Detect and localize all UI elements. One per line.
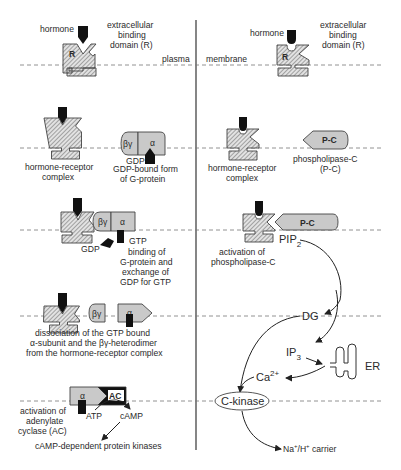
step3-desc-1: binding of xyxy=(128,247,166,257)
pc-label-1: phospholipase-C xyxy=(293,154,358,164)
ckinase-to-carrier-arrow xyxy=(242,411,281,449)
alpha-subunit-icon xyxy=(118,304,152,322)
complex-label-2: complex xyxy=(226,173,259,183)
atp-label: ATP xyxy=(86,411,102,421)
gprotein-label-1: GDP-bound form xyxy=(113,164,178,174)
gdp-label: GDP xyxy=(81,244,100,254)
plasma-label: plasma xyxy=(162,54,190,64)
step5-desc-2: adenylate xyxy=(26,416,63,426)
step3-desc-1: activation of xyxy=(219,247,265,257)
left-step5: α AC activation of adenylate cyclase (AC… xyxy=(18,387,162,451)
hormone-label: hormone xyxy=(250,28,284,38)
alpha-label: α xyxy=(150,138,155,148)
gprotein-label-2: of G-protein xyxy=(120,174,166,184)
domain-label-2: binding xyxy=(329,30,357,40)
complex-label-2: complex xyxy=(42,172,75,182)
hormone-label: hormone xyxy=(40,24,74,34)
ca-label: Ca2+ xyxy=(256,369,280,383)
receptor-letter: R xyxy=(282,52,289,62)
domain-label-1: extracellular xyxy=(320,20,366,30)
domain-label-3: domain (R) xyxy=(322,40,365,50)
hormone-icon xyxy=(239,117,247,131)
receptor-icon xyxy=(63,44,96,76)
membrane-label: membrane xyxy=(206,54,247,64)
gdp-leaving-icon xyxy=(100,238,114,248)
left-step2: hormone-receptor complex βγ α GDP GDP-bo… xyxy=(25,107,178,184)
left-step1: hormone R extracellular binding domain (… xyxy=(40,20,190,76)
step4-desc-3: from the hormone-receptor complex xyxy=(26,348,163,358)
step3-desc-2: phospholipase-C xyxy=(211,257,276,267)
right-cascade: DG IP3 ER Ca2+ C-kinase Na+/H+ carrier xyxy=(215,240,380,454)
pip2-label: PIP2 xyxy=(279,233,302,249)
ip3-to-er-arrow xyxy=(306,358,322,364)
hormone-receptor-complex-icon xyxy=(243,214,275,242)
step4-desc-1: dissociation of the GTP bound xyxy=(35,328,150,338)
hormone-icon xyxy=(78,26,88,44)
domain-label-2: binding xyxy=(118,30,146,40)
camp-to-kinases-arrow xyxy=(102,422,120,440)
alpha-label: α xyxy=(120,217,125,227)
step4-desc-2: α-subunit and the βγ-heterodimer xyxy=(30,338,157,348)
camp-kinases-label: cAMP-dependent protein kinases xyxy=(35,441,162,451)
domain-label-3: domain (R) xyxy=(110,40,153,50)
dg-label: DG xyxy=(302,310,319,322)
step3-desc-2: G-protein and xyxy=(120,257,173,267)
left-step4: βγ α dissociation of the GTP bound α-sub… xyxy=(26,293,163,358)
hormone-receptor-complex-icon xyxy=(44,118,82,159)
er-icon xyxy=(330,344,356,379)
receptor-letter: R xyxy=(69,49,76,59)
left-step3: βγ α GDP GTP binding of G-protein and ex… xyxy=(61,198,173,287)
ip3-label: IP3 xyxy=(286,346,301,362)
pip2-to-ip3-arrow xyxy=(316,290,338,342)
right-step3: P-C PIP2 activation of phospholipase-C xyxy=(211,201,338,267)
pc-label: P-C xyxy=(300,218,315,228)
pc-label: P-C xyxy=(322,135,337,145)
er-to-ca-arrow xyxy=(286,366,325,378)
hormone-icon xyxy=(255,201,263,216)
right-step1: hormone R extracellular binding domain (… xyxy=(206,20,366,76)
gtp-icon xyxy=(126,314,133,327)
step5-desc-3: cyclase (AC) xyxy=(18,426,67,436)
right-step2: hormone-receptor complex P-C phospholipa… xyxy=(208,117,358,183)
step5-desc-1: activation of xyxy=(20,406,66,416)
beta-gamma-label: βγ xyxy=(92,309,102,319)
c-kinase-label: C-kinase xyxy=(221,395,264,407)
pip2-to-dg-arrow xyxy=(300,240,341,314)
hormone-receptor-complex-icon xyxy=(227,129,259,160)
er-label: ER xyxy=(365,360,380,372)
hormone-icon xyxy=(287,30,296,44)
gtp-icon xyxy=(117,230,124,243)
camp-label: cAMP xyxy=(120,411,143,421)
signal-transduction-diagram: hormone R extracellular binding domain (… xyxy=(0,0,401,470)
step3-desc-3: exchange of xyxy=(122,267,169,277)
beta-gamma-label: βγ xyxy=(123,139,133,149)
gtp-label: GTP xyxy=(129,236,147,246)
na-h-carrier-label: Na+/H+ carrier xyxy=(283,443,337,454)
complex-label-1: hormone-receptor xyxy=(208,163,276,173)
beta-gamma-label: βγ xyxy=(98,217,108,227)
domain-label-1: extracellular xyxy=(107,20,153,30)
step3-desc-4: GDP for GTP xyxy=(120,277,171,287)
complex-label-1: hormone-receptor xyxy=(25,162,93,172)
alpha-label: α xyxy=(80,391,85,401)
gtp-icon xyxy=(78,400,86,414)
pc-label-2: (P-C) xyxy=(320,164,341,174)
